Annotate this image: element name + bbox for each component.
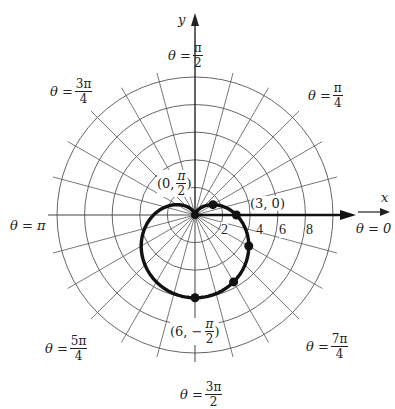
curve-point: [244, 242, 253, 251]
x-axis-label: x: [381, 190, 388, 205]
polar-axis-arrow-icon: [340, 210, 356, 220]
angle-label-pi: θ = π: [10, 218, 46, 233]
radial-grid-line: [53, 215, 195, 253]
y-axis-arrow-icon: [191, 13, 199, 26]
point-label-3-0: (3, 0): [250, 196, 285, 211]
x-axis-arrow-icon: [380, 208, 390, 216]
curve-point: [208, 200, 217, 209]
angle-label-5pi-over-4: θ = 5π4: [45, 335, 87, 362]
radial-grid-line: [195, 215, 337, 253]
radial-grid-line: [68, 215, 195, 289]
origin-point: [191, 211, 199, 219]
angle-label-pi-over-2: θ = π2: [168, 42, 203, 69]
curve-point: [232, 211, 241, 220]
radial-tick-4: 4: [256, 222, 263, 238]
angle-label-zero: θ = 0: [356, 221, 391, 236]
radial-grid-line: [195, 73, 233, 215]
curve-point: [191, 293, 200, 302]
angle-label-3pi-over-2: θ = 3π2: [180, 381, 222, 408]
radial-tick-6: 6: [279, 222, 286, 238]
angle-label-pi-over-4: θ = π4: [308, 82, 343, 109]
radial-grid-line: [91, 111, 195, 215]
curve-point: [229, 277, 238, 286]
point-label-0-pi-over-2: (0, π2 ): [157, 170, 191, 197]
angle-label-7pi-over-4: θ = 7π4: [306, 333, 348, 360]
radial-tick-8: 8: [306, 222, 313, 238]
angle-label-3pi-over-4: θ = 3π4: [50, 78, 92, 105]
radial-tick-2: 2: [221, 222, 228, 238]
point-label-6-neg-pi-over-2: (6, − π2 ): [170, 318, 219, 345]
y-axis-label: y: [178, 12, 185, 27]
